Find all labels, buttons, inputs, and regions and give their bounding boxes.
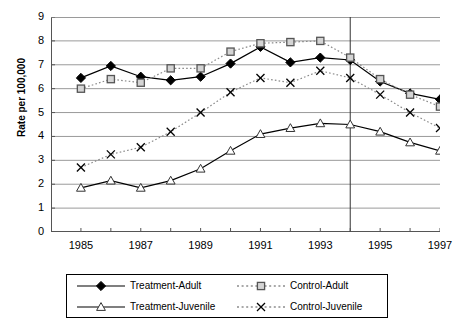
marker-open-square xyxy=(317,37,324,44)
x-axis-tick-label: 1987 xyxy=(121,240,161,251)
marker-filled-diamond xyxy=(96,281,105,290)
chart-legend: Treatment-AdultControl-AdultTreatment-Ju… xyxy=(66,274,388,318)
legend-marker-open-triangle xyxy=(75,301,127,313)
marker-filled-diamond xyxy=(76,73,85,82)
marker-cross xyxy=(137,143,145,151)
marker-open-triangle xyxy=(196,164,205,172)
x-axis-tick-label: 1995 xyxy=(360,240,400,251)
x-axis-tick-label: 1997 xyxy=(420,240,457,251)
legend-label: Treatment-Adult xyxy=(130,280,201,291)
marker-open-square xyxy=(137,79,144,86)
legend-item: Treatment-Juvenile xyxy=(67,301,227,313)
marker-open-triangle xyxy=(316,119,325,127)
marker-open-square xyxy=(77,85,84,92)
series-line xyxy=(81,71,440,168)
marker-open-square xyxy=(377,76,384,83)
marker-cross xyxy=(257,303,265,311)
x-axis-tick-label: 1993 xyxy=(300,240,340,251)
marker-open-triangle xyxy=(106,176,115,184)
x-axis-tick-label: 1989 xyxy=(181,240,221,251)
x-axis-tick-label: 1991 xyxy=(240,240,280,251)
marker-open-square xyxy=(167,65,174,72)
marker-open-square xyxy=(227,48,234,55)
legend-marker-open-square xyxy=(235,280,287,292)
y-axis-tick-label: 9 xyxy=(24,11,44,22)
marker-filled-diamond xyxy=(196,72,205,81)
marker-filled-diamond xyxy=(286,58,295,67)
legend-marker-cross xyxy=(235,301,287,313)
marker-cross xyxy=(107,150,115,158)
marker-open-square xyxy=(257,282,264,289)
x-axis-tick-labels: 1985198719891991199319951997 xyxy=(0,240,452,256)
y-axis-tick-label: 8 xyxy=(24,35,44,46)
legend-item: Control-Juvenile xyxy=(227,301,387,313)
y-axis-tick-label: 4 xyxy=(24,130,44,141)
legend-label: Treatment-Juvenile xyxy=(130,301,215,312)
y-axis-tick-label: 7 xyxy=(24,59,44,70)
series-line xyxy=(81,47,440,100)
marker-open-triangle xyxy=(226,146,235,154)
marker-open-triangle xyxy=(166,176,175,184)
marker-open-square xyxy=(287,38,294,45)
marker-open-square xyxy=(347,54,354,61)
marker-open-square xyxy=(107,76,114,83)
marker-open-square xyxy=(257,40,264,47)
marker-filled-diamond xyxy=(106,61,115,70)
marker-cross xyxy=(256,74,264,82)
legend-marker-filled-diamond xyxy=(75,280,127,292)
marker-cross xyxy=(77,164,85,172)
marker-cross xyxy=(316,67,324,75)
y-axis-tick-label: 6 xyxy=(24,83,44,94)
marker-open-square xyxy=(406,91,413,98)
legend-item: Control-Adult xyxy=(227,280,387,292)
y-axis-tick-label: 5 xyxy=(24,107,44,118)
marker-open-square xyxy=(436,103,440,110)
marker-filled-diamond xyxy=(316,53,325,62)
x-axis-tick-label: 1985 xyxy=(61,240,101,251)
y-axis-tick-label: 3 xyxy=(24,154,44,165)
marker-cross xyxy=(436,124,440,132)
legend-label: Control-Juvenile xyxy=(290,301,362,312)
marker-cross xyxy=(227,88,235,96)
marker-cross xyxy=(167,128,175,136)
y-axis-tick-labels: 0123456789 xyxy=(22,0,44,260)
plot-area xyxy=(51,17,440,232)
marker-filled-diamond xyxy=(166,76,175,85)
legend-item: Treatment-Adult xyxy=(67,280,227,292)
marker-cross xyxy=(376,91,384,99)
marker-open-square xyxy=(197,65,204,72)
series-treatment-juvenile xyxy=(77,119,440,191)
series-treatment-adult xyxy=(76,42,440,104)
chart-plot-svg xyxy=(51,17,440,232)
y-axis-tick-label: 1 xyxy=(24,202,44,213)
y-axis-tick-label: 2 xyxy=(24,178,44,189)
legend-label: Control-Adult xyxy=(290,280,348,291)
y-axis-tick-label: 0 xyxy=(24,226,44,237)
marker-filled-diamond xyxy=(226,59,235,68)
